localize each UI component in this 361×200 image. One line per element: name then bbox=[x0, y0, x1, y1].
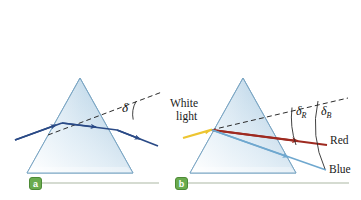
prism-b-base-sheen bbox=[190, 167, 296, 173]
delta-subscript-r: R bbox=[302, 111, 307, 120]
emergent-ray-a-tail bbox=[117, 130, 158, 146]
panel-a bbox=[15, 78, 162, 183]
prism-a-base-sheen bbox=[27, 167, 133, 173]
panel-b bbox=[181, 78, 349, 183]
prism-b-highlight bbox=[190, 78, 296, 173]
blue-ray-label: Blue bbox=[329, 163, 351, 175]
prism-b bbox=[190, 78, 296, 173]
panel-badge-a: a bbox=[29, 177, 42, 190]
panel-badge-b: b bbox=[175, 177, 188, 190]
white-light-label-line2: light bbox=[176, 110, 197, 122]
white-light-label-line1: White bbox=[170, 97, 198, 109]
red-ray-label: Red bbox=[330, 134, 349, 146]
white-light-ray-line bbox=[183, 130, 212, 138]
delta-subscript-b: B bbox=[327, 111, 332, 120]
red-deviation-angle-label: δR bbox=[296, 104, 306, 120]
deviation-angle-label-a: δ bbox=[122, 100, 128, 116]
delta-symbol: δ bbox=[122, 100, 128, 115]
deviation-angle-arc-a bbox=[133, 102, 136, 120]
blue-deviation-angle-label: δB bbox=[321, 104, 331, 120]
